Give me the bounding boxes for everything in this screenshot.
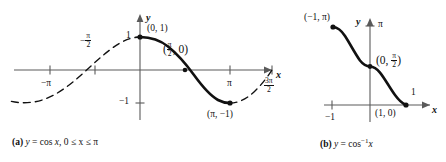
panel-b-caption: (b) y = cos−1x [320,137,373,149]
tick-label-neg-one: −1 [119,97,129,107]
x-axis-label: x [276,69,281,80]
tick-label-neg-pi: −π [41,79,51,89]
tick-label-3pi-over-2: 3π2 [264,77,274,93]
caption-range: 0 ≤ x ≤ π [64,137,98,147]
point-neg1-pi [330,24,335,29]
point-label-halfpi-0: (π2, 0) [163,41,188,57]
point-0-halfpi [368,64,373,69]
y-axis-arrowhead [137,14,144,22]
point-0-1 [137,34,142,39]
point-1-0 [403,102,408,107]
tick-label-one: 1 [126,31,131,41]
close-paren-text: , 0) [173,43,188,55]
caption-x: x, [55,137,62,147]
fraction-denominator: 2 [264,86,274,94]
tick-label-neg-half-pi: −π2 [80,32,91,48]
panel-b-arccos-graph: y x π −1 1 (−1, π) (0, π2) (1, 0) (b) y … [292,0,446,162]
point-label-neg1-pi: (−1, π) [304,13,330,23]
close-paren: ) [397,54,401,66]
caption-cos: cos [40,137,53,147]
fraction-pi-over-2: π2 [85,32,91,48]
caption-equals: = [32,137,37,147]
point-halfpi-0 [183,68,188,73]
panel-a-caption: (a) y = cos x, 0 ≤ x ≤ π [12,137,98,147]
tick-label-pi: π [378,20,383,30]
fraction-denominator: 2 [85,41,91,49]
panel-a-cosine-graph: y x −π −π2 π 3π2 1 −1 (0, 1) (π2, 0) (π,… [0,0,292,162]
caption-equals: = [341,139,346,149]
tick-label-pi: π [227,79,232,89]
point-label-1-0: (1, 0) [375,109,396,119]
y-axis-label: y [356,16,360,27]
tick-label-one: 1 [411,88,416,98]
caption-x: x [368,139,372,149]
caption-tag: (a) [12,137,23,147]
point-label-0-1: (0, 1) [147,24,168,34]
y-axis-arrowhead [367,18,374,26]
caption-tag: (b) [320,139,332,149]
caption-y: y [334,139,338,149]
open-paren-text: (0, [376,54,391,66]
figure-container: y x −π −π2 π 3π2 1 −1 (0, 1) (π2, 0) (π,… [0,0,446,162]
point-label-0-halfpi: (0, π2) [376,52,401,68]
tick-label-neg-one: −1 [325,113,335,123]
y-axis-label: y [146,12,150,23]
point-label-pi-neg1: (π, −1) [207,110,233,120]
point-pi-neg1 [227,100,232,105]
fraction-3pi-over-2: 3π2 [264,77,274,93]
caption-y: y [25,137,29,147]
x-axis-label: x [432,104,437,115]
caption-cos: cos [348,139,361,149]
x-axis-arrowhead [422,102,430,109]
